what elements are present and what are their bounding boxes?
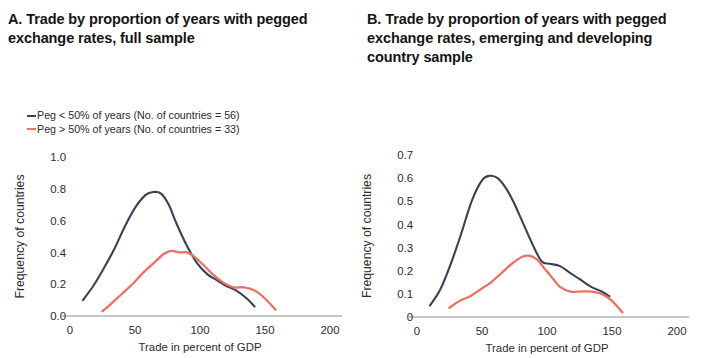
y-tick-label: 0.5	[397, 195, 413, 207]
y-tick-label: 0	[407, 311, 413, 323]
x-tick-label: 100	[537, 325, 556, 337]
x-tick-label: 200	[320, 324, 339, 336]
y-axis-title: Frequency of countries	[13, 175, 27, 299]
y-tick-label: 0.4	[397, 219, 413, 231]
x-tick-label: 0	[67, 324, 73, 336]
x-tick-label: 100	[190, 324, 209, 336]
y-tick-label: 0.6	[50, 215, 66, 227]
figure-container: A. Trade by proportion of years with peg…	[0, 0, 703, 358]
x-tick-label: 50	[129, 324, 142, 336]
x-tick-label: 50	[476, 325, 489, 337]
panel-b: B. Trade by proportion of years with peg…	[351, 0, 703, 358]
panel-b-svg: 00.10.20.30.40.50.60.7050100150200Trade …	[351, 0, 703, 358]
series-line	[430, 176, 609, 306]
y-axis-title: Frequency of countries	[360, 174, 374, 298]
x-tick-label: 150	[602, 325, 621, 337]
series-line	[450, 255, 623, 312]
x-axis-title: Trade in percent of GDP	[485, 342, 608, 354]
y-tick-label: 0.8	[50, 183, 66, 195]
x-tick-label: 0	[414, 325, 420, 337]
panel-a-svg: 0.00.20.40.60.81.0050100150200Trade in p…	[0, 0, 351, 358]
panel-b-plot: 00.10.20.30.40.50.60.7050100150200Trade …	[351, 0, 703, 358]
series-line	[83, 192, 255, 307]
y-tick-label: 0.2	[397, 265, 413, 277]
y-tick-label: 0.7	[397, 149, 413, 161]
y-tick-label: 0.1	[397, 288, 413, 300]
x-axis-title: Trade in percent of GDP	[138, 341, 261, 353]
y-tick-label: 0.2	[50, 278, 66, 290]
x-tick-label: 150	[255, 324, 274, 336]
panel-a: A. Trade by proportion of years with peg…	[0, 0, 351, 358]
panel-a-plot: 0.00.20.40.60.81.0050100150200Trade in p…	[0, 0, 351, 358]
y-tick-label: 0.6	[397, 172, 413, 184]
x-tick-label: 200	[667, 325, 686, 337]
y-tick-label: 0.3	[397, 242, 413, 254]
y-tick-label: 0.4	[50, 247, 66, 259]
y-tick-label: 0.0	[50, 310, 66, 322]
y-tick-label: 1.0	[50, 151, 66, 163]
